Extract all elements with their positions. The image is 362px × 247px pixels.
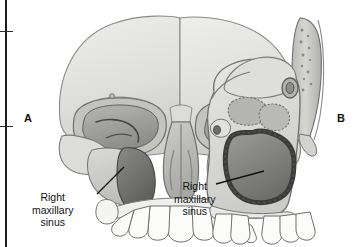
- callout-a-line-2: maxillary: [32, 204, 73, 217]
- frontal-foramen-a: [110, 94, 115, 99]
- panel-label-b: B: [337, 112, 345, 124]
- infraorbital-foramen-b: [214, 126, 221, 134]
- callout-a: Right maxillary sinus: [32, 191, 73, 229]
- anatomy-figure: A B Right maxillary sinus Right maxillar…: [0, 0, 362, 247]
- callout-b-line-3: sinus: [174, 205, 215, 218]
- callout-b-line-2: maxillary: [174, 193, 215, 206]
- callout-a-line-1: Right: [32, 191, 73, 204]
- canine-stub-a-shape: [96, 199, 118, 224]
- callout-b-line-1: Right: [174, 180, 215, 193]
- orbital-canal-inner-shape-b: [286, 83, 294, 94]
- callout-a-line-3: sinus: [32, 216, 73, 229]
- callout-b: Right maxillary sinus: [174, 180, 215, 218]
- pterygoid-tail-b-shape: [299, 134, 316, 156]
- upper-teeth-row-b: [213, 212, 315, 244]
- nasion-a: [170, 105, 192, 122]
- panel-label-a: A: [24, 112, 32, 124]
